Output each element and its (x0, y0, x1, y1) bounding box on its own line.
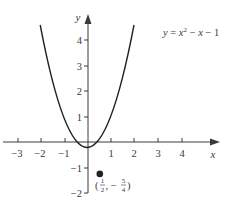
vertex-label-y-den: 4 (122, 186, 126, 194)
x-tick-label: −2 (34, 148, 45, 159)
vertex-label-x-num: 1 (101, 177, 105, 185)
y-axis-ticks (84, 40, 88, 193)
y-tick-label: 2 (77, 86, 82, 97)
x-tick-labels: −3 −2 −1 1 2 3 4 (11, 148, 185, 159)
x-tick-label: 3 (155, 148, 160, 159)
vertex-label-y-num: 5 (122, 177, 126, 185)
y-tick-labels: 4 3 2 1 −1 −2 (71, 35, 83, 199)
vertex-label: ( 1 2 , − 5 4 ) (95, 177, 131, 194)
parabola-chart: −3 −2 −1 1 2 3 4 x 4 3 2 1 −1 −2 (0, 0, 226, 207)
eq-equals: = (168, 27, 179, 38)
x-tick-label: 1 (108, 148, 113, 159)
x-tick-label: −1 (58, 148, 69, 159)
vertex-label-x-den: 2 (101, 186, 105, 194)
y-axis-arrow-icon (85, 14, 92, 24)
y-tick-label: 4 (77, 35, 83, 46)
y-axis: 4 3 2 1 −1 −2 y (71, 11, 92, 199)
y-tick-label: −1 (71, 163, 82, 174)
vertex-label-close: ) (127, 180, 131, 192)
x-tick-label: 4 (179, 148, 185, 159)
eq-minus: − (187, 27, 198, 38)
x-tick-label: 2 (131, 148, 136, 159)
y-tick-label: 1 (77, 112, 82, 123)
x-axis-label: x (210, 148, 216, 160)
vertex-label-open: ( (95, 180, 99, 192)
y-tick-label: 3 (77, 61, 82, 72)
vertex-label-sep: , − (106, 180, 117, 191)
parabola-curve (40, 25, 134, 147)
x-tick-label: −3 (11, 148, 22, 159)
eq-tail: − 1 (203, 27, 219, 38)
y-axis-label: y (75, 11, 81, 23)
x-axis-arrow-icon (210, 139, 220, 146)
equation-label: y = x2 − x − 1 (162, 26, 219, 38)
y-tick-label: −2 (71, 188, 82, 199)
x-axis: −3 −2 −1 1 2 3 4 x (3, 138, 220, 160)
